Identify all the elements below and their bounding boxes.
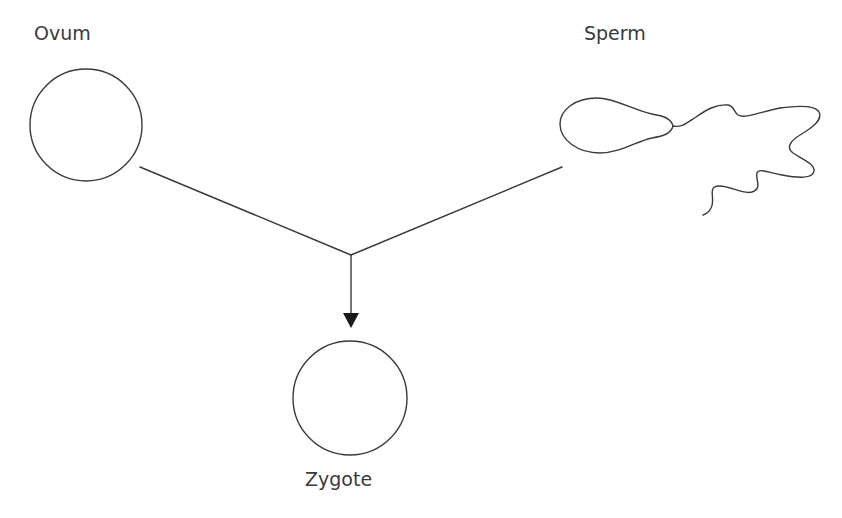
sperm-cell-icon (560, 98, 673, 153)
sperm-connector-line (351, 167, 562, 255)
zygote-circle (293, 341, 407, 455)
arrow-down-icon (343, 313, 359, 328)
ovum-connector-line (140, 167, 351, 255)
ovum-circle (30, 69, 142, 181)
fertilization-diagram (0, 0, 842, 518)
sperm-tail (673, 105, 820, 215)
